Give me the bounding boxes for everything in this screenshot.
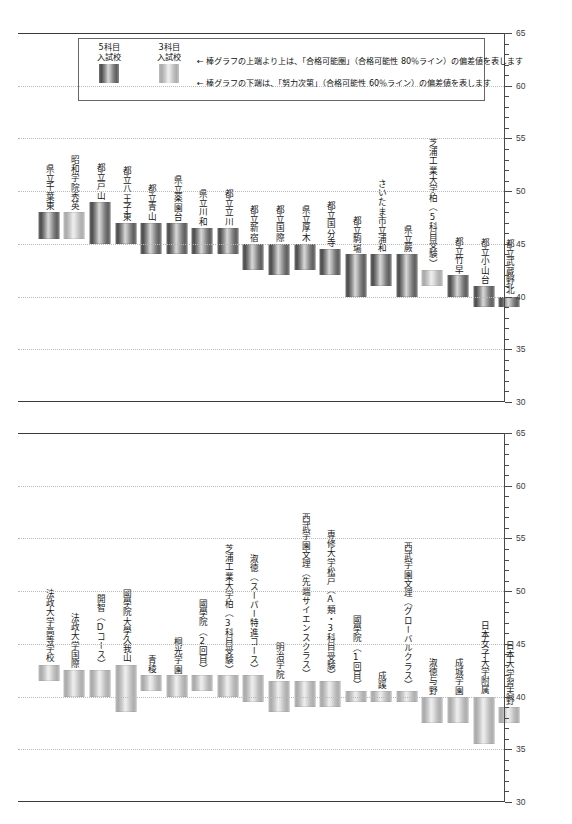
bar[interactable] (345, 254, 366, 296)
bar[interactable] (448, 697, 469, 723)
gridline (18, 349, 504, 350)
axis-tick-label: 30 (516, 798, 526, 807)
axis-tick-minor (505, 339, 509, 340)
bar-item[interactable]: 開智（Dコース） (87, 433, 113, 802)
legend-key-5subject: 5科目 入試校 (87, 43, 131, 83)
axis-tick-minor (505, 665, 509, 666)
bar[interactable] (294, 681, 315, 707)
axis-tick-minor (505, 328, 509, 329)
axis-tick-minor (505, 391, 509, 392)
axis-tick-minor (505, 107, 509, 108)
bar[interactable] (243, 244, 264, 270)
bar[interactable] (115, 223, 136, 244)
bar[interactable] (89, 670, 110, 696)
axis-tick-minor (505, 212, 509, 213)
legend-box: 5科目 入試校 3科目 入試校 ← 棒グラフの上端より上は、「合格可能圏」（合格… (78, 38, 485, 101)
bar[interactable] (89, 202, 110, 244)
axis-tick-minor (505, 728, 509, 729)
legend-swatch-dark-icon (99, 64, 119, 83)
axis-tick-minor (505, 581, 509, 582)
axis-tick-minor (505, 223, 509, 224)
bar[interactable] (396, 254, 417, 296)
bar[interactable] (243, 675, 264, 701)
bar[interactable] (448, 275, 469, 296)
bar-label: 都立竹早 (453, 237, 463, 274)
bar[interactable] (217, 228, 238, 254)
bar-item[interactable]: 県立千葉東 (36, 33, 62, 402)
bar-label: 県立薬園台 (172, 175, 182, 221)
axis-tick-major (505, 538, 512, 539)
axis-tick-minor (505, 233, 509, 234)
gridline (18, 749, 504, 750)
bar[interactable] (192, 675, 213, 691)
bar-item[interactable]: 國學院大學久我山 (113, 433, 139, 802)
bar-label: 淑徳（スーパー特進コース） (248, 554, 258, 674)
axis-tick-label: 40 (516, 692, 526, 701)
axis-tick-minor (505, 170, 509, 171)
axis-tick-minor (505, 507, 509, 508)
bar-label: 國學院大學久我山 (121, 589, 131, 663)
bar-item[interactable]: 西武学園文理（先端サイエンスクラス） (292, 433, 318, 802)
bar[interactable] (499, 707, 520, 723)
bar-item[interactable]: 法政大学国際 (62, 433, 88, 802)
bar[interactable] (141, 675, 162, 691)
bar[interactable] (422, 270, 443, 286)
bar[interactable] (320, 249, 341, 275)
axis-tick-minor (505, 181, 509, 182)
bar-item[interactable]: 國學院（1回目） (343, 433, 369, 802)
axis-tick-major (505, 486, 512, 487)
bar-label: 法政大学高等学校 (44, 589, 54, 663)
bar[interactable] (371, 254, 392, 286)
bar-item[interactable]: 淑徳与野 (420, 433, 446, 802)
axis-tick-minor (505, 370, 509, 371)
bar-item[interactable]: 國學院（2回目） (189, 433, 215, 802)
gridline (18, 244, 504, 245)
bar-item[interactable]: 成蹊 (369, 433, 395, 802)
axis-tick-minor (505, 675, 509, 676)
bar-item[interactable]: 淑徳（スーパー特進コース） (241, 433, 267, 802)
axis-tick-major (505, 433, 512, 434)
bar[interactable] (217, 675, 238, 696)
bar-label: 國學院（2回目） (197, 599, 207, 674)
axis-tick-minor (505, 528, 509, 529)
bar-label: さいたま市立浦和 (376, 179, 386, 253)
bar[interactable] (166, 223, 187, 255)
bar[interactable] (268, 244, 289, 276)
bar[interactable] (192, 228, 213, 254)
bar[interactable] (64, 212, 85, 238)
bar-item[interactable]: 西武学園文理（グローバルクラス） (394, 433, 420, 802)
axis-tick-minor (505, 623, 509, 624)
bar[interactable] (141, 223, 162, 255)
axis-tick-major (505, 33, 512, 34)
bar[interactable] (64, 670, 85, 696)
bar[interactable] (166, 675, 187, 696)
bar-label: 県立千葉東 (44, 164, 54, 210)
axis-tick-major (505, 244, 512, 245)
axis-tick-major (505, 591, 512, 592)
bar[interactable] (320, 681, 341, 707)
bar[interactable] (422, 697, 443, 723)
bar[interactable] (38, 212, 59, 238)
bar-item[interactable]: 桐光学園 (164, 433, 190, 802)
bar-item[interactable]: 芝浦工業大学柏（3科目受験） (215, 433, 241, 802)
bar-item[interactable]: 日本女子大学附属 (471, 433, 497, 802)
bar-item[interactable]: 明治学院 (266, 433, 292, 802)
bar-item[interactable]: 成城学園 (445, 433, 471, 802)
bar-item[interactable]: 法政大学高等学校 (36, 433, 62, 802)
bar[interactable] (294, 244, 315, 270)
axis-tick-label: 50 (516, 187, 526, 196)
plot-area-2: 法政大学高等学校法政大学国際開智（Dコース）國學院大學久我山青稜桐光学園國學院（… (18, 420, 522, 810)
axis-tick-minor (505, 117, 509, 118)
axis-tick-label: 45 (516, 240, 526, 249)
axis-tick-minor (505, 570, 509, 571)
axis-tick-label: 60 (516, 481, 526, 490)
bar-item[interactable]: 専修大学松戸（A類・3科目受験） (317, 433, 343, 802)
bar[interactable] (115, 665, 136, 712)
axis-tick-minor (505, 454, 509, 455)
bar[interactable] (38, 665, 59, 681)
bar-label: 青稜 (146, 655, 156, 673)
axis-tick-minor (505, 686, 509, 687)
bar-item[interactable]: 青稜 (138, 433, 164, 802)
bar[interactable] (473, 697, 494, 744)
gridline (18, 697, 504, 698)
